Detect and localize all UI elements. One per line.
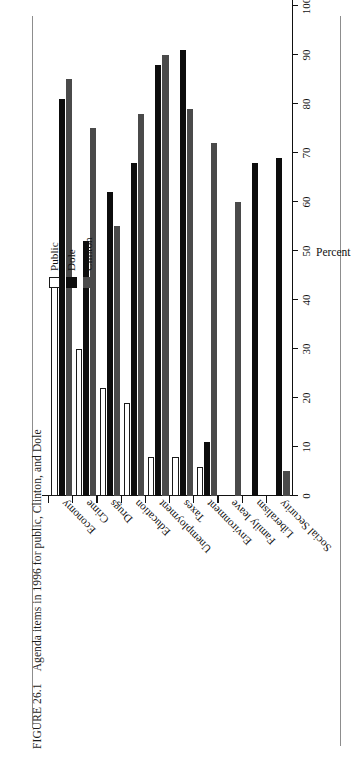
- bar-public: [76, 349, 82, 496]
- value-tick-label: 90: [300, 50, 312, 61]
- value-tick: [292, 299, 298, 300]
- category-tick: [145, 496, 146, 503]
- value-tick: [292, 495, 298, 496]
- bar-dole: [131, 163, 137, 496]
- bar-public: [197, 467, 203, 496]
- category-tick: [169, 496, 170, 503]
- value-tick-label: 70: [300, 148, 312, 159]
- bar-clinton: [187, 109, 193, 496]
- bar-public: [100, 388, 106, 496]
- bar-dole: [155, 65, 161, 496]
- value-tick-label: 80: [300, 99, 312, 110]
- bar-dole: [204, 442, 210, 496]
- value-axis-line: [292, 0, 293, 496]
- plot-area: 0102030405060708090100 EconomyCrimeDrugs…: [32, 0, 318, 588]
- value-tick: [292, 201, 298, 202]
- category-tick: [217, 496, 218, 503]
- bar-clinton: [283, 472, 289, 497]
- value-tick-label: 50: [300, 246, 312, 257]
- bar-dole: [276, 158, 282, 496]
- legend-item: Clinton: [82, 237, 94, 288]
- value-tick-label: 20: [300, 393, 312, 404]
- category-tick: [48, 496, 49, 503]
- bar-chart: 0102030405060708090100 EconomyCrimeDrugs…: [32, 0, 318, 588]
- legend-swatch: [66, 277, 77, 288]
- legend-swatch: [49, 277, 60, 288]
- bar-clinton: [138, 114, 144, 496]
- value-tick: [292, 250, 298, 251]
- bar-dole: [180, 50, 186, 496]
- bar-clinton: [90, 129, 96, 497]
- value-tick: [292, 103, 298, 104]
- figure-page: FIGURE 26.1Agenda items in 1996 for publ…: [0, 0, 354, 764]
- bar-dole: [107, 192, 113, 496]
- value-tick-label: 0: [300, 493, 312, 499]
- bar-clinton: [235, 202, 241, 496]
- legend-item: Public: [48, 237, 60, 288]
- legend-swatch: [83, 277, 94, 288]
- value-tick: [292, 5, 298, 6]
- value-tick-label: 30: [300, 344, 312, 355]
- value-tick-label: 60: [300, 197, 312, 208]
- bar-clinton: [114, 227, 120, 497]
- page-rule-right: [340, 16, 341, 746]
- legend-label: Clinton: [82, 237, 94, 271]
- category-tick: [121, 496, 122, 503]
- value-tick: [292, 54, 298, 55]
- chart-legend: PublicDoleClinton: [48, 237, 99, 288]
- value-tick: [292, 152, 298, 153]
- value-axis-title: Percent: [316, 246, 350, 258]
- category-tick: [193, 496, 194, 503]
- bar-dole: [59, 99, 65, 496]
- bar-clinton: [162, 55, 168, 496]
- legend-item: Dole: [65, 237, 77, 288]
- category-tick: [242, 496, 243, 503]
- legend-label: Dole: [65, 249, 77, 271]
- category-tick: [72, 496, 73, 503]
- value-tick-label: 40: [300, 295, 312, 306]
- value-tick-label: 100: [300, 0, 312, 14]
- bar-clinton: [211, 143, 217, 496]
- bar-public: [124, 403, 130, 496]
- category-tick: [96, 496, 97, 503]
- value-tick: [292, 446, 298, 447]
- bar-dole: [252, 163, 258, 496]
- bar-public: [172, 457, 178, 496]
- value-tick: [292, 397, 298, 398]
- category-tick: [266, 496, 267, 503]
- legend-label: Public: [48, 242, 60, 271]
- bar-public: [51, 280, 57, 496]
- bar-public: [148, 457, 154, 496]
- value-tick-label: 10: [300, 442, 312, 453]
- value-tick: [292, 348, 298, 349]
- figure-number: FIGURE 26.1: [31, 683, 43, 749]
